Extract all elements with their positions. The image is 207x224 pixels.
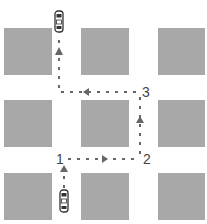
waypoint-label-3: 3 [142, 85, 150, 99]
car-icon [60, 190, 68, 212]
arrow-up-icon [55, 47, 63, 55]
arrow-up-icon [136, 116, 144, 123]
arrow-right-icon [102, 155, 108, 163]
waypoint-label-1: 1 [56, 152, 64, 166]
arrow-left-icon [83, 88, 89, 96]
route-path [59, 36, 140, 188]
route-diagram [0, 0, 207, 224]
route-arrows [55, 47, 144, 172]
waypoint-label-2: 2 [143, 152, 151, 166]
car-icon [55, 11, 63, 32]
